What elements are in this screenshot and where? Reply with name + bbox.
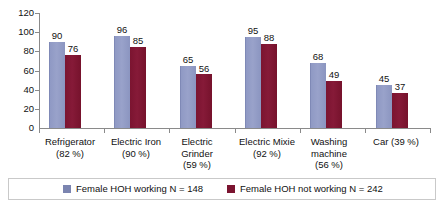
bar-refrigerator-working[interactable] [49, 42, 65, 128]
x-category-label-electric-mixie: Electric Mixie (92 %) [229, 136, 305, 159]
bar-value-car-not-working: 37 [388, 82, 412, 92]
legend-label-working: Female HOH working N = 148 [76, 184, 203, 194]
bar-value-refrigerator-working: 90 [45, 31, 69, 41]
bar-washing-machine-not-working[interactable] [326, 81, 342, 128]
bar-car-not-working[interactable] [392, 93, 408, 129]
bar-chart-figure: 120 100 80 60 40 20 0 90 76 [0, 0, 445, 206]
bar-electric-mixie-working[interactable] [245, 37, 261, 128]
bar-value-electric-iron-working: 96 [110, 25, 134, 35]
legend-swatch-icon-working [63, 185, 71, 193]
bar-refrigerator-not-working[interactable] [65, 55, 81, 128]
bar-electric-iron-not-working[interactable] [130, 47, 146, 129]
x-category-label-washing-machine: Washing machine (56 %) [298, 136, 360, 171]
bar-electric-mixie-not-working[interactable] [261, 44, 277, 128]
legend-swatch-icon-not-working [227, 185, 235, 193]
bar-electric-iron-working[interactable] [114, 36, 130, 128]
legend-label-not-working: Female HOH not working N = 242 [240, 184, 383, 194]
legend-item-female-hoh-not-working[interactable]: Female HOH not working N = 242 [227, 184, 383, 194]
legend-item-female-hoh-working[interactable]: Female HOH working N = 148 [63, 184, 203, 194]
bar-value-washing-machine-not-working: 49 [322, 70, 346, 80]
bar-electric-grinder-working[interactable] [180, 66, 196, 128]
chart-legend: Female HOH working N = 148 Female HOH no… [8, 178, 436, 200]
x-category-label-refrigerator: Refrigerator (82 %) [32, 136, 108, 159]
bar-value-refrigerator-not-working: 76 [61, 44, 85, 54]
bar-value-electric-mixie-not-working: 88 [257, 33, 281, 43]
bar-value-electric-iron-not-working: 85 [126, 36, 150, 46]
plot-area: 120 100 80 60 40 20 0 90 76 [0, 0, 445, 176]
x-category-label-car: Car (39 %) [358, 136, 434, 148]
x-category-label-electric-grinder: Electric Grinder (59 %) [168, 136, 226, 171]
x-category-label-electric-iron: Electric Iron (90 %) [98, 136, 174, 159]
bar-value-washing-machine-working: 68 [306, 52, 330, 62]
bar-electric-grinder-not-working[interactable] [196, 74, 212, 128]
bar-value-electric-grinder-not-working: 56 [192, 64, 216, 74]
